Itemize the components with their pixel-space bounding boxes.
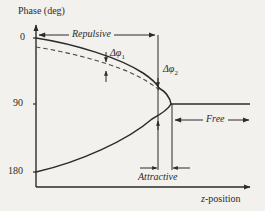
y-tick-label-180: 180 bbox=[8, 166, 23, 176]
phase-vs-z-position-figure: Phase (deg) 0 90 180 Repulsive Free Attr… bbox=[0, 0, 265, 211]
curve-lower-branch bbox=[36, 104, 171, 172]
curve-fold-turning-point bbox=[159, 88, 171, 104]
y-axis-title: Phase (deg) bbox=[18, 6, 65, 16]
region-label-attractive: Attractive bbox=[138, 172, 177, 182]
delta-phi-1-label: Δφ1 bbox=[110, 48, 125, 61]
delta-phi-1-symbol: Δφ bbox=[110, 47, 121, 58]
y-tick-label-0: 0 bbox=[20, 32, 25, 42]
curve-upper-branch bbox=[36, 38, 159, 88]
region-label-free: Free bbox=[203, 114, 228, 124]
figure-canvas bbox=[0, 0, 265, 211]
x-axis-title: z-position bbox=[201, 194, 240, 204]
x-axis-title-rest: -position bbox=[205, 193, 241, 204]
delta-phi-2-label: Δφ2 bbox=[163, 64, 178, 77]
y-tick-label-90: 90 bbox=[13, 98, 23, 108]
delta-phi-2-symbol: Δφ bbox=[163, 63, 174, 74]
delta-phi-2-subscript: 2 bbox=[174, 69, 178, 77]
region-label-repulsive: Repulsive bbox=[69, 29, 114, 39]
delta-phi-1-subscript: 1 bbox=[121, 53, 125, 61]
